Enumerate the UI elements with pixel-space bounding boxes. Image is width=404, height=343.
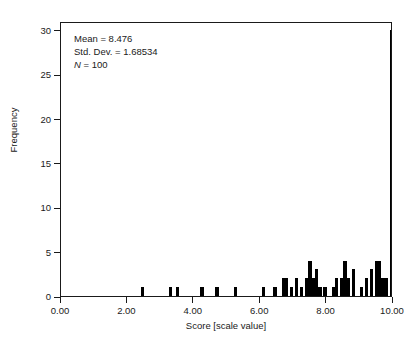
x-axis-title: Score [scale value]: [60, 320, 392, 331]
x-tick-mark: [259, 297, 260, 303]
y-axis: 051015202530: [0, 22, 60, 297]
histogram-bar: [347, 278, 350, 296]
sample-size-label: N: [74, 59, 81, 70]
histogram-bar: [176, 287, 179, 296]
y-tick-label: 0: [46, 290, 51, 304]
y-tick-label: 30: [40, 24, 51, 38]
mean-label: Mean =: [74, 33, 106, 44]
sample-size-line: N = 100: [74, 58, 158, 71]
x-tick-label: 8.00: [316, 305, 335, 316]
std-dev-line: Std. Dev. = 1.68534: [74, 45, 158, 58]
y-tick-label: 25: [40, 68, 51, 82]
stats-annotation: Mean = 8.476 Std. Dev. = 1.68534 N = 100: [74, 32, 158, 72]
histogram-bar: [318, 287, 321, 296]
histogram-bar: [360, 287, 363, 296]
y-tick-label: 20: [40, 113, 51, 127]
histogram-bar: [215, 287, 218, 296]
histogram-bar: [385, 278, 388, 296]
histogram-bar: [290, 287, 293, 296]
histogram-bar: [234, 287, 237, 296]
x-tick-label: 10.00: [380, 305, 404, 316]
histogram-bar: [295, 278, 298, 296]
histogram-bar: [300, 287, 303, 296]
histogram-bar: [390, 30, 391, 296]
y-tick-label: 5: [46, 246, 51, 260]
histogram-bar: [352, 269, 355, 296]
x-tick-label: 6.00: [250, 305, 269, 316]
x-tick-label: 4.00: [184, 305, 203, 316]
y-tick-label: 15: [40, 157, 51, 171]
x-tick-mark: [60, 297, 61, 303]
mean-line: Mean = 8.476: [74, 32, 158, 45]
y-tick-label: 10: [40, 201, 51, 215]
histogram-bar: [200, 287, 203, 296]
x-tick-mark: [192, 297, 193, 303]
x-tick-mark: [126, 297, 127, 303]
histogram-bar: [141, 287, 144, 296]
histogram-bar: [262, 287, 265, 296]
histogram-bar: [273, 287, 276, 296]
plot-frame: Mean = 8.476 Std. Dev. = 1.68534 N = 100: [60, 22, 392, 297]
histogram-bar: [365, 278, 368, 296]
x-tick-label: 2.00: [117, 305, 136, 316]
histogram-bar: [323, 287, 326, 296]
histogram-bar: [169, 287, 172, 296]
std-dev-label: Std. Dev. =: [74, 46, 121, 57]
histogram-bar: [370, 269, 373, 296]
x-tick-mark: [392, 297, 393, 303]
x-tick-mark: [325, 297, 326, 303]
sample-size-value: = 100: [84, 59, 108, 70]
std-dev-value: 1.68534: [123, 46, 157, 57]
histogram-bar: [285, 278, 288, 296]
histogram-bar: [335, 278, 338, 296]
mean-value: 8.476: [109, 33, 133, 44]
x-tick-label: 0.00: [51, 305, 70, 316]
